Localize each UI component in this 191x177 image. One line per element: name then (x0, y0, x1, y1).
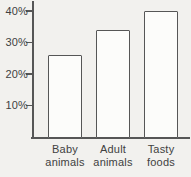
bar-tasty-foods (144, 11, 178, 138)
x-category-label-line: Tasty (129, 143, 191, 156)
bar-adult-animals (96, 30, 130, 138)
y-tick-label: 20% (0, 69, 28, 80)
y-tick-label: 40% (0, 6, 28, 17)
bar-baby-animals (48, 55, 82, 138)
x-category-label: Tastyfoods (129, 143, 191, 169)
y-tick-label: 30% (0, 37, 28, 48)
bar-chart: 10%20%30%40%BabyanimalsAdultanimalsTasty… (0, 0, 191, 177)
y-axis (32, 1, 34, 139)
x-category-label-line: foods (129, 156, 191, 169)
y-tick-label: 10% (0, 100, 28, 111)
